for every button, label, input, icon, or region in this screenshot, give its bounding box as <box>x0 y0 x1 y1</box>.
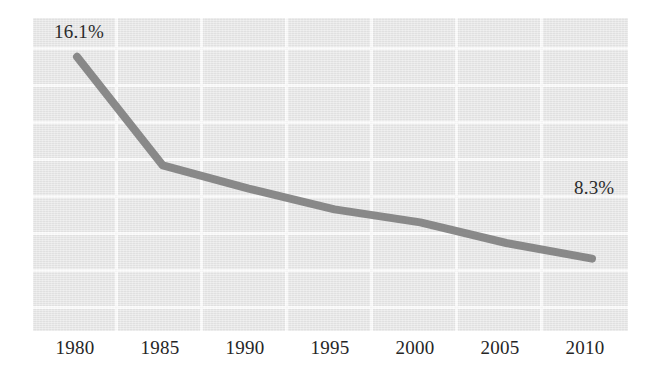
data-label-start: 16.1% <box>54 21 104 43</box>
x-tick-label: 2000 <box>395 337 434 359</box>
x-tick-label: 1990 <box>225 337 264 359</box>
x-tick-label: 1985 <box>140 337 179 359</box>
x-tick-label: 2010 <box>565 337 604 359</box>
x-tick-label: 1980 <box>55 337 94 359</box>
chart-figure: 16.1% 8.3% 1980 1985 1990 1995 2000 2005… <box>0 0 652 383</box>
data-label-end: 8.3% <box>574 177 614 199</box>
x-tick-label: 2005 <box>480 337 519 359</box>
series-line-chart <box>0 0 652 383</box>
x-axis: 1980 1985 1990 1995 2000 2005 2010 <box>33 337 628 367</box>
series-line <box>77 57 592 259</box>
x-tick-label: 1995 <box>310 337 349 359</box>
